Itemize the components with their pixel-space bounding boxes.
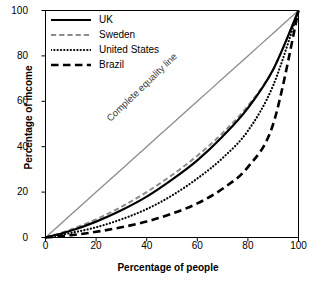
x-tick-label-100: 100 — [284, 241, 310, 251]
legend-label: United States — [99, 44, 159, 56]
x-tick-label-80: 80 — [233, 241, 263, 251]
x-tick-label-60: 60 — [182, 241, 212, 251]
legend-item-united-states: United States — [51, 42, 181, 57]
legend-label: Sweden — [99, 29, 135, 41]
x-tick-label-40: 40 — [132, 241, 162, 251]
lorenz-curve-figure: Percentage of income 020406080100 Comple… — [0, 0, 309, 282]
legend-label: Brazil — [99, 59, 124, 71]
legend-item-uk: UK — [51, 12, 181, 27]
x-axis-tick-labels: 020406080100 — [0, 241, 309, 255]
x-tick-label-0: 0 — [31, 241, 61, 251]
legend-label: UK — [99, 14, 113, 26]
legend-item-brazil: Brazil — [51, 57, 181, 72]
legend-item-sweden: Sweden — [51, 27, 181, 42]
x-axis-title: Percentage of people — [38, 262, 298, 273]
legend-swatch-united-states — [51, 44, 91, 56]
chart-legend: UKSwedenUnited StatesBrazil — [51, 12, 181, 72]
legend-swatch-brazil — [51, 59, 91, 71]
legend-swatch-sweden — [51, 29, 91, 41]
x-tick-label-20: 20 — [81, 241, 111, 251]
legend-swatch-uk — [51, 14, 91, 26]
